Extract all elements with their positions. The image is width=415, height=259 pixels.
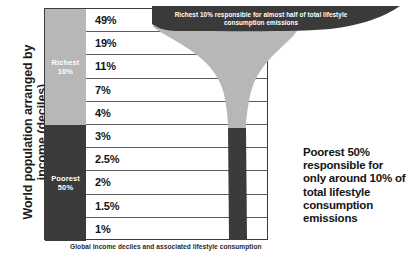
row-value: 19% <box>95 37 116 49</box>
table-row: 7% <box>86 79 267 102</box>
table-row: 4% <box>86 102 267 125</box>
group-label-poorest: Poorest 50% <box>45 125 86 241</box>
group-label-richest: Richest 10% <box>45 9 86 125</box>
banner-annotation-text: Richest 10% responsible for almost half … <box>168 11 354 28</box>
group-label-poorest-text: Poorest 50% <box>51 174 80 192</box>
table-row: 1% <box>86 218 267 241</box>
row-value: 3% <box>95 130 111 142</box>
group-label-poorest-line2: 50% <box>58 183 73 192</box>
row-value: 2% <box>95 176 111 188</box>
row-value: 11% <box>95 60 116 72</box>
infographic-chart: World population arranged by income (dec… <box>0 0 415 259</box>
plot-area: Richest 10% Poorest 50% 49% 19% 11% 7% 4… <box>44 8 268 240</box>
row-value: 2.5% <box>95 153 119 165</box>
group-label-richest-line1: Richest <box>52 58 80 67</box>
table-row: 2% <box>86 171 267 194</box>
row-value: 1.5% <box>95 200 119 212</box>
callout-annotation-text: Poorest 50% responsible for only around … <box>303 146 407 225</box>
group-label-poorest-line1: Poorest <box>51 174 80 183</box>
row-value: 1% <box>95 223 111 235</box>
group-label-richest-text: Richest 10% <box>52 58 80 76</box>
row-value: 4% <box>95 107 111 119</box>
decile-rows: 49% 19% 11% 7% 4% 3% 2.5% 2% 1.5% 1% <box>86 9 267 239</box>
table-row: 3% <box>86 125 267 148</box>
group-label-richest-line2: 10% <box>58 67 73 76</box>
table-row: 1.5% <box>86 195 267 218</box>
table-row: 11% <box>86 55 267 78</box>
row-value: 49% <box>95 14 116 26</box>
table-row: 2.5% <box>86 148 267 171</box>
table-row: 19% <box>86 32 267 55</box>
chart-caption: Global income deciles and associated lif… <box>70 243 262 250</box>
row-value: 7% <box>95 84 111 96</box>
